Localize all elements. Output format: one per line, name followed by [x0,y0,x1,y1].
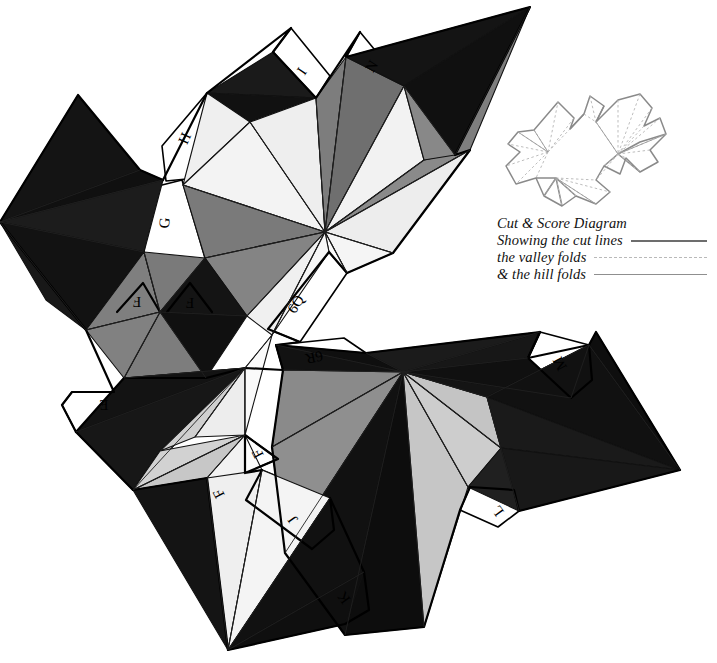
tab-f2-label: F [186,295,194,311]
legend-label-title: Cut & Score Diagram [497,215,627,232]
legend-row-cut: Showing the cut lines [497,232,707,249]
tab-f1-label: F [133,294,141,310]
legend-label-cut: Showing the cut lines [497,232,623,249]
tab-g-label: G [156,216,173,229]
cut-and-score-net: HGIN6Q6RFFEFFJKML [0,0,717,663]
legend-label-hill: & the hill folds [497,266,586,283]
thumbnail-diagram [506,94,666,206]
legend-row-valley: the valley folds [497,249,707,266]
tab-e-label: E [99,397,108,413]
legend-label-valley: the valley folds [497,249,586,266]
legend: Cut & Score Diagram Showing the cut line… [497,215,707,283]
diagram-canvas: HGIN6Q6RFFEFFJKML Cut & Score [0,0,717,663]
legend-rule-cut-line [631,240,707,242]
legend-rule-valley-line [594,257,707,258]
legend-rule-hill-line [594,274,707,275]
face [245,335,272,435]
legend-row-hill: & the hill folds [497,266,707,283]
legend-row-title: Cut & Score Diagram [497,215,707,232]
